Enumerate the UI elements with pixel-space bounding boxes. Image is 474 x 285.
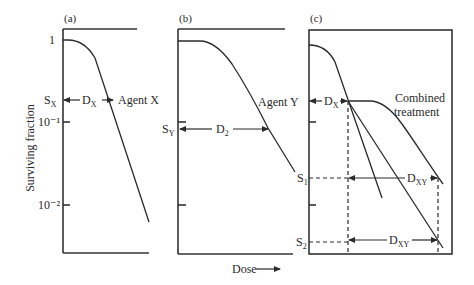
dx-c-marker: DX xyxy=(324,94,339,110)
agent-y-label: Agent Y xyxy=(258,95,299,109)
agent-y-after-x-line xyxy=(348,101,443,248)
combined-label-2: treatment xyxy=(394,105,440,119)
y-tick-1: 1 xyxy=(49,33,55,47)
panel-c: (c) Combined treatment DX S2 DXY DXY xyxy=(296,12,452,254)
s1-end-marker: S1 xyxy=(297,171,308,187)
panel-c-frame xyxy=(309,30,452,254)
dxy-upper-marker: DXY xyxy=(407,171,427,187)
y-tick-1e-2: 10⁻² xyxy=(38,198,60,212)
agent-x-label: Agent X xyxy=(118,93,159,107)
x-axis-label: Dose xyxy=(232,262,257,276)
d2-marker: D2 xyxy=(216,122,229,138)
dxy-lower-marker: DXY xyxy=(389,233,409,249)
sy-marker: SY xyxy=(162,122,175,138)
dx-marker: DX xyxy=(82,93,97,109)
panel-a-label: (a) xyxy=(64,12,77,25)
combined-label-1: Combined xyxy=(395,91,445,105)
s2-marker: S2 xyxy=(296,235,307,251)
agent-x-curve xyxy=(63,40,149,222)
panel-c-label: (c) xyxy=(310,12,323,25)
panel-a: (a) 1 10⁻¹ 10⁻² SX DX Agent X xyxy=(38,12,159,253)
y-axis-label: Surviving fraction xyxy=(23,104,37,192)
panel-b: (b) Agent Y SY D2 S1 Dose xyxy=(162,12,308,276)
sx-marker: SX xyxy=(44,93,57,109)
y-tick-1e-1: 10⁻¹ xyxy=(38,115,60,129)
agent-x-curve-c xyxy=(309,45,382,198)
panel-b-label: (b) xyxy=(179,12,192,25)
survival-curve-figure: Surviving fraction (a) 1 10⁻¹ 10⁻² SX DX… xyxy=(0,0,474,285)
